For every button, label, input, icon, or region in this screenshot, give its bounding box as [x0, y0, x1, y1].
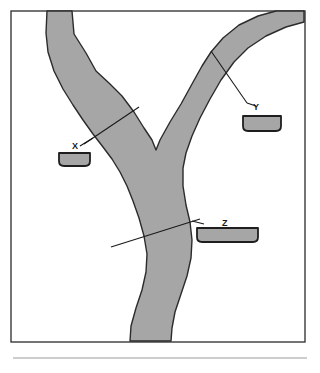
diagram-canvas: XYZ [0, 0, 320, 373]
cross-section-bar-x [59, 153, 90, 166]
cross-section-bar-y [243, 116, 281, 131]
river-cross-section-diagram: XYZ [0, 0, 320, 373]
transect-z-label: Z [222, 218, 228, 228]
transect-y-label: Y [253, 102, 259, 112]
cross-section-bar-z [197, 228, 258, 242]
transect-x-label: X [72, 141, 78, 151]
